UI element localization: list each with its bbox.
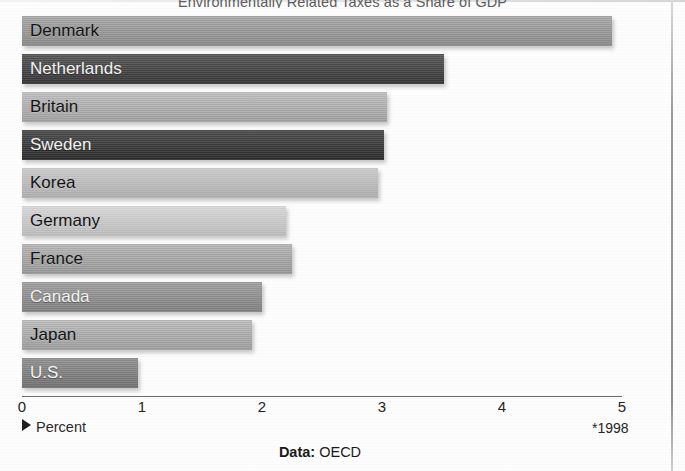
bar-row: France: [0, 244, 685, 277]
category-label: Canada: [30, 286, 90, 307]
category-label: U.S.: [30, 362, 63, 383]
x-tick-label: 1: [130, 398, 154, 415]
category-label: Britain: [30, 96, 78, 117]
bar-chart-plot-area: DenmarkNetherlandsBritainSwedenKoreaGerm…: [0, 14, 685, 398]
triangle-bullet-icon: [22, 419, 31, 431]
footnote: *1998: [592, 420, 629, 436]
bar: [22, 168, 378, 198]
bar-row: Canada: [0, 282, 685, 315]
x-axis-line: [22, 396, 622, 397]
chart-title: Environmentally Related Taxes as a Share…: [0, 0, 685, 8]
bar-row: Sweden: [0, 130, 685, 163]
x-tick-label: 3: [370, 398, 394, 415]
chart-page: Environmentally Related Taxes as a Share…: [0, 0, 685, 471]
bar-row: Germany: [0, 206, 685, 239]
x-tick-label: 4: [490, 398, 514, 415]
category-label: Germany: [30, 210, 100, 231]
x-axis-label-text: Percent: [36, 419, 86, 435]
bar-row: Japan: [0, 320, 685, 353]
bar-row: Korea: [0, 168, 685, 201]
data-source-prefix: Data:: [279, 444, 315, 460]
bar-row: Britain: [0, 92, 685, 125]
bar-row: U.S.: [0, 358, 685, 391]
data-source-name: OECD: [319, 444, 361, 460]
data-source: Data: OECD: [0, 444, 640, 460]
bar: [22, 16, 612, 46]
x-axis-label: Percent: [22, 419, 86, 435]
category-label: Korea: [30, 172, 75, 193]
category-label: Sweden: [30, 134, 91, 155]
x-tick-label: 2: [250, 398, 274, 415]
bar-row: Denmark: [0, 16, 685, 49]
bar-row: Netherlands: [0, 54, 685, 87]
category-label: Denmark: [30, 20, 99, 41]
category-label: Japan: [30, 324, 76, 345]
scan-column-rule: [671, 0, 673, 471]
category-label: Netherlands: [30, 58, 122, 79]
category-label: France: [30, 248, 83, 269]
x-tick-label: 5: [610, 398, 634, 415]
x-tick-label: 0: [10, 398, 34, 415]
